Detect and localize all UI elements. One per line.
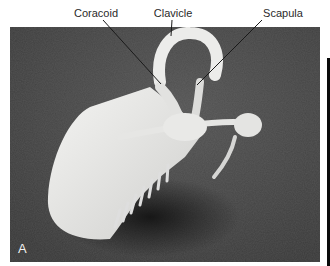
panel-letter: A: [18, 241, 27, 256]
bird-pectoral-girdle-photo: [10, 27, 320, 262]
label-scapula: Scapula: [263, 7, 303, 19]
label-coracoid: Coracoid: [74, 7, 118, 19]
label-clavicle: Clavicle: [154, 7, 193, 19]
